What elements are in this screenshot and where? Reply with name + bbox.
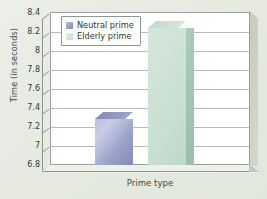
legend-item-label: Elderly prime xyxy=(77,31,132,42)
x-axis-line xyxy=(42,171,250,172)
legend-item-elderly-prime: Elderly prime xyxy=(66,31,134,42)
x-axis-title: Prime type xyxy=(50,178,250,188)
y-tick-label: 7.8 xyxy=(16,66,40,74)
bar-top-face xyxy=(95,112,133,119)
y-tick-label: 6.8 xyxy=(16,161,40,169)
bar-front-face xyxy=(95,119,133,172)
bar-front-face xyxy=(148,28,186,172)
y-tick-label: 7 xyxy=(16,142,40,150)
bar-elderly-prime xyxy=(148,12,186,172)
y-tick-label: 8.2 xyxy=(16,28,40,36)
legend-item-neutral-prime: Neutral prime xyxy=(66,20,134,31)
legend-swatch-icon xyxy=(66,33,73,40)
legend-swatch-icon xyxy=(66,22,73,29)
y-tick-label: 7.6 xyxy=(16,85,40,93)
y-tick-label: 8.4 xyxy=(16,9,40,17)
y-tick-label: 7.2 xyxy=(16,123,40,131)
y-tick-label: 7.4 xyxy=(16,104,40,112)
bar-chart: Time (in seconds) 8.4 8.2 8 7.8 7.6 7.4 … xyxy=(0,0,267,199)
y-axis-tick-labels: 8.4 8.2 8 7.8 7.6 7.4 7.2 7 6.8 xyxy=(14,0,40,199)
legend-item-label: Neutral prime xyxy=(77,20,134,31)
bar-side-face xyxy=(186,28,194,172)
bar-top-face xyxy=(148,21,186,28)
plot-right-wall xyxy=(249,11,258,166)
legend: Neutral prime Elderly prime xyxy=(61,16,141,46)
y-tick-connector xyxy=(42,14,50,20)
y-tick-label: 8 xyxy=(16,47,40,55)
